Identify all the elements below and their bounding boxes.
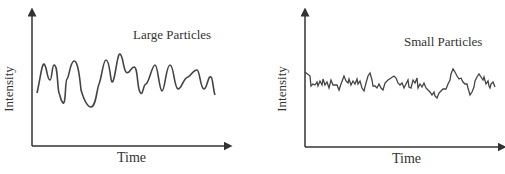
small-particles-trace <box>305 69 495 98</box>
right-y-axis-label: Intensity <box>274 66 290 112</box>
large-particles-trace <box>37 54 215 107</box>
right-x-axis-label: Time <box>392 151 421 167</box>
left-x-axis-label: Time <box>117 150 146 166</box>
right-chart-title: Small Particles <box>404 34 482 50</box>
left-chart-title: Large Particles <box>133 27 211 43</box>
left-y-axis-label: Intensity <box>1 66 17 112</box>
figure-canvas <box>0 0 505 174</box>
right-axes <box>305 12 502 147</box>
